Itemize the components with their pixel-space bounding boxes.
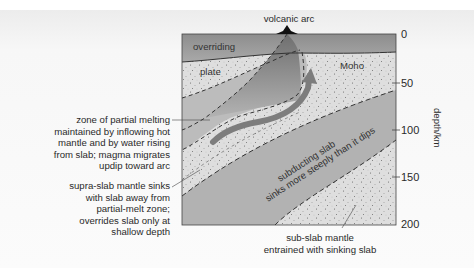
sub-slab-annotation: sub-slab mantle entrained with sinking s… <box>235 232 405 255</box>
depth-tick-50: 50 <box>401 77 413 89</box>
depth-tick-100: 100 <box>401 124 419 136</box>
annotation-line: sub-slab mantle <box>235 232 405 244</box>
annotation-line: supra-slab mantle sinks <box>0 180 170 192</box>
annotation-line: from slab; magma migrates <box>0 149 170 161</box>
annotation-line: mantle and by water rising <box>0 137 170 149</box>
annotation-line: overrides slab only at <box>0 215 170 227</box>
volcano-icon <box>276 25 298 34</box>
supra-slab-annotation: supra-slab mantle sinks with slab away f… <box>0 180 170 238</box>
plate-label: plate <box>200 66 221 77</box>
depth-tick-200: 200 <box>401 218 419 230</box>
annotation-line: zone of partial melting <box>0 114 170 126</box>
annotation-line: updip toward arc <box>0 160 170 172</box>
depth-tick-0: 0 <box>401 28 407 40</box>
annotation-line: partial-melt zone; <box>0 203 170 215</box>
annotation-line: shallow depth <box>0 226 170 238</box>
overriding-label: overriding <box>193 41 235 52</box>
annotation-line: with slab away from <box>0 192 170 204</box>
annotation-line: maintained by inflowing hot <box>0 126 170 138</box>
moho-label: Moho <box>340 60 364 71</box>
annotation-line: entrained with sinking slab <box>235 244 405 256</box>
depth-tick-150: 150 <box>401 171 419 183</box>
partial-melting-annotation: zone of partial melting maintained by in… <box>0 114 170 172</box>
volcanic-arc-label: volcanic arc <box>234 13 344 25</box>
depth-axis-title: depth/km <box>432 108 443 147</box>
